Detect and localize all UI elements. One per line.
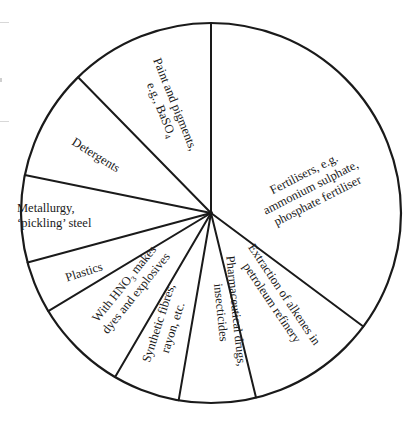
slice-label-metallurgy: Metallurgy, ‘pickling’ steel bbox=[17, 201, 92, 230]
svg-text:‘pickling’ steel: ‘pickling’ steel bbox=[17, 216, 92, 230]
pie-chart: Fertilisers, e.g. ammonium sulphate, pho… bbox=[0, 0, 418, 429]
pie-center-dot bbox=[209, 211, 213, 215]
slice-label-pharmaceutical: Pharmaceutical drugs, insecticides bbox=[208, 255, 248, 369]
svg-text:Metallurgy,: Metallurgy, bbox=[17, 201, 75, 215]
slice-label-synthetic-fibres: Synthetic fibres, rayon, etc. bbox=[139, 282, 192, 369]
slice-label-detergents: Detergents bbox=[69, 135, 122, 176]
slice-label-fertilisers: Fertilisers, e.g. ammonium sulphate, pho… bbox=[254, 144, 367, 231]
svg-text:Detergents: Detergents bbox=[69, 135, 122, 176]
